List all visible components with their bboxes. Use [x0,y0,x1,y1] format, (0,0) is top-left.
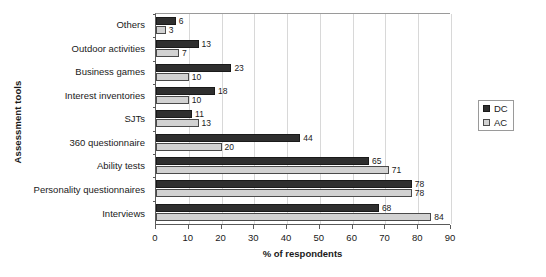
bar-line: 18 [156,87,450,95]
bar-ac [156,73,189,81]
x-axis-tick-label: 10 [182,231,193,244]
bar-line: 11 [156,110,450,118]
bar-line: 78 [156,180,450,188]
bar-line: 23 [156,64,450,72]
bar-value-label: 65 [369,157,381,166]
x-axis-tick [253,225,254,229]
legend-label: DC [494,104,508,114]
bar-value-label: 23 [231,64,243,73]
bar-line: 71 [156,166,450,174]
category-label: Interest inventories [18,84,150,108]
legend-item-dc[interactable]: DC [483,104,508,114]
y-axis-tick [153,177,156,178]
bar-line: 10 [156,73,450,81]
bar-value-label: 13 [199,119,211,128]
bar-line: 65 [156,157,450,165]
bar-line: 78 [156,189,450,197]
x-axis-ticks [155,225,450,230]
y-axis-tick [153,84,156,85]
y-axis-tick [153,107,156,108]
legend-swatch-icon [483,119,490,126]
x-axis-tick-labels: 0102030405060708090 [155,231,450,244]
y-axis-tick [153,154,156,155]
x-axis-tick [155,225,156,229]
bar-value-label: 13 [199,40,211,49]
category-label: Outdoor activities [18,37,150,61]
bar-group: 1810 [156,84,450,107]
bar-ac [156,119,199,127]
bar-line: 6 [156,17,450,25]
bar-line: 7 [156,49,450,57]
x-axis-tick [319,225,320,229]
bar-value-label: 71 [389,166,401,175]
bar-value-label: 84 [431,213,443,222]
category-axis-labels: OthersOutdoor activitiesBusiness gamesIn… [18,13,150,225]
x-axis-tick-label: 20 [215,231,226,244]
bar-value-label: 10 [189,96,201,105]
y-axis-tick [153,131,156,132]
legend-label: AC [494,118,507,128]
bar-line: 44 [156,134,450,142]
bar-line: 10 [156,96,450,104]
bar-dc [156,157,369,165]
bar-dc [156,134,300,142]
x-axis-tick [188,225,189,229]
bar-line: 68 [156,204,450,212]
bar-group: 7878 [156,177,450,200]
x-axis-tick [352,225,353,229]
bar-dc [156,87,215,95]
x-axis-tick [450,225,451,229]
bar-value-label: 78 [412,189,424,198]
y-axis-tick [153,37,156,38]
bar-value-label: 18 [215,87,227,96]
x-axis-tick-label: 40 [281,231,292,244]
bar-value-label: 7 [179,49,187,58]
category-label: Others [18,13,150,37]
bar-value-label: 44 [300,134,312,143]
bar-line: 13 [156,40,450,48]
bar-value-label: 10 [189,73,201,82]
x-axis-tick-label: 60 [346,231,357,244]
bar-group: 63 [156,14,450,37]
legend-item-ac[interactable]: AC [483,118,508,128]
x-axis-title: % of respondents [155,248,450,259]
bar-value-label: 20 [222,143,234,152]
bar-rows: 631372310181011134420657178786884 [156,14,450,224]
category-label: Ability tests [18,154,150,178]
y-axis-tick [153,14,156,15]
x-axis-tick [286,225,287,229]
bar-ac [156,96,189,104]
legend: DCAC [478,100,514,131]
x-axis-tick-label: 50 [314,231,325,244]
bar-chart: Assessment tools OthersOutdoor activitie… [0,0,546,277]
bar-group: 2310 [156,61,450,84]
x-axis-tick-label: 30 [248,231,259,244]
category-label: Interviews [18,202,150,226]
x-axis-tick [384,225,385,229]
bar-dc [156,110,192,118]
bar-dc [156,64,231,72]
bar-dc [156,17,176,25]
category-label: 360 questionnaire [18,131,150,155]
x-axis-tick [221,225,222,229]
gridline [451,14,452,224]
bar-ac [156,166,389,174]
bar-ac [156,213,431,221]
bar-ac [156,49,179,57]
bar-value-label: 68 [379,204,391,213]
legend-swatch-icon [483,105,490,112]
bar-value-label: 3 [166,26,174,35]
bar-group: 6884 [156,201,450,224]
bar-group: 4420 [156,131,450,154]
y-axis-tick [153,61,156,62]
bar-group: 1113 [156,107,450,130]
x-axis-tick-label: 80 [412,231,423,244]
x-axis-tick-label: 90 [445,231,456,244]
x-axis-tick-label: 0 [152,231,157,244]
bar-line: 20 [156,143,450,151]
y-axis-tick [153,201,156,202]
category-label: Business games [18,60,150,84]
bar-line: 84 [156,213,450,221]
x-axis-tick [417,225,418,229]
bar-dc [156,180,412,188]
